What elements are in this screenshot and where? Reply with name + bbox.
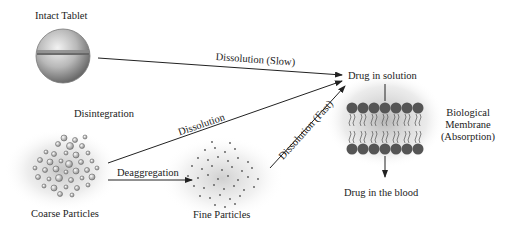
coarse-particles-label: Coarse Particles [31, 209, 99, 220]
absorption-label: (Absorption) [431, 132, 505, 143]
deaggregation-label: Deaggregation [117, 168, 179, 179]
intact-tablet-label: Intact Tablet [35, 11, 87, 22]
fine-particles-label: Fine Particles [193, 210, 250, 221]
tablet-icon [36, 29, 90, 83]
coarse-particles-icon [4, 128, 120, 212]
biological-label: Biological [438, 108, 498, 119]
drug-in-blood-label: Drug in the blood [344, 188, 418, 199]
disintegration-label: Disintegration [74, 109, 134, 120]
drug-in-solution-label: Drug in solution [348, 71, 417, 82]
membrane-label: Membrane [438, 120, 498, 131]
